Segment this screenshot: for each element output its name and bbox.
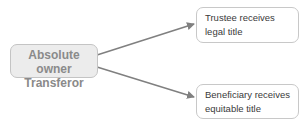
beneficiary-line2: equitable title: [205, 102, 298, 116]
beneficiary-line1: Beneficiary receives: [205, 88, 298, 102]
beneficiary-node: Beneficiary receives equitable title: [196, 84, 299, 119]
trustee-node: Trustee receives legal title: [196, 7, 299, 43]
source-line2: Transferor: [11, 76, 97, 90]
source-line1: Absolute owner: [11, 48, 97, 76]
trustee-line2: legal title: [205, 25, 298, 39]
arrow-to-beneficiary: [97, 67, 194, 97]
absolute-owner-node: Absolute owner Transferor: [10, 44, 98, 78]
arrow-to-trustee: [97, 24, 194, 55]
trustee-line1: Trustee receives: [205, 11, 298, 25]
